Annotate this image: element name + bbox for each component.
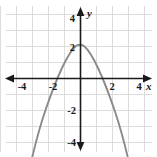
y-tick-label-minus-2: -2 (67, 105, 76, 116)
y-tick-label-4: 4 (70, 13, 76, 24)
graph-canvas: -4 -2 2 4 4 2 -2 -4 y x (0, 0, 157, 157)
x-axis-name-label: x (145, 80, 152, 92)
y-tick-label-2: 2 (70, 42, 75, 53)
x-tick-label-minus-2: -2 (49, 81, 58, 92)
coordinate-graph-figure: -4 -2 2 4 4 2 -2 -4 y x (0, 0, 157, 157)
y-tick-label-minus-4: -4 (67, 137, 76, 148)
x-tick-label-2: 2 (109, 81, 114, 92)
x-tick-label-4: 4 (136, 81, 142, 92)
x-tick-label-minus-4: -4 (18, 81, 27, 92)
y-axis-name-label: y (85, 7, 92, 19)
